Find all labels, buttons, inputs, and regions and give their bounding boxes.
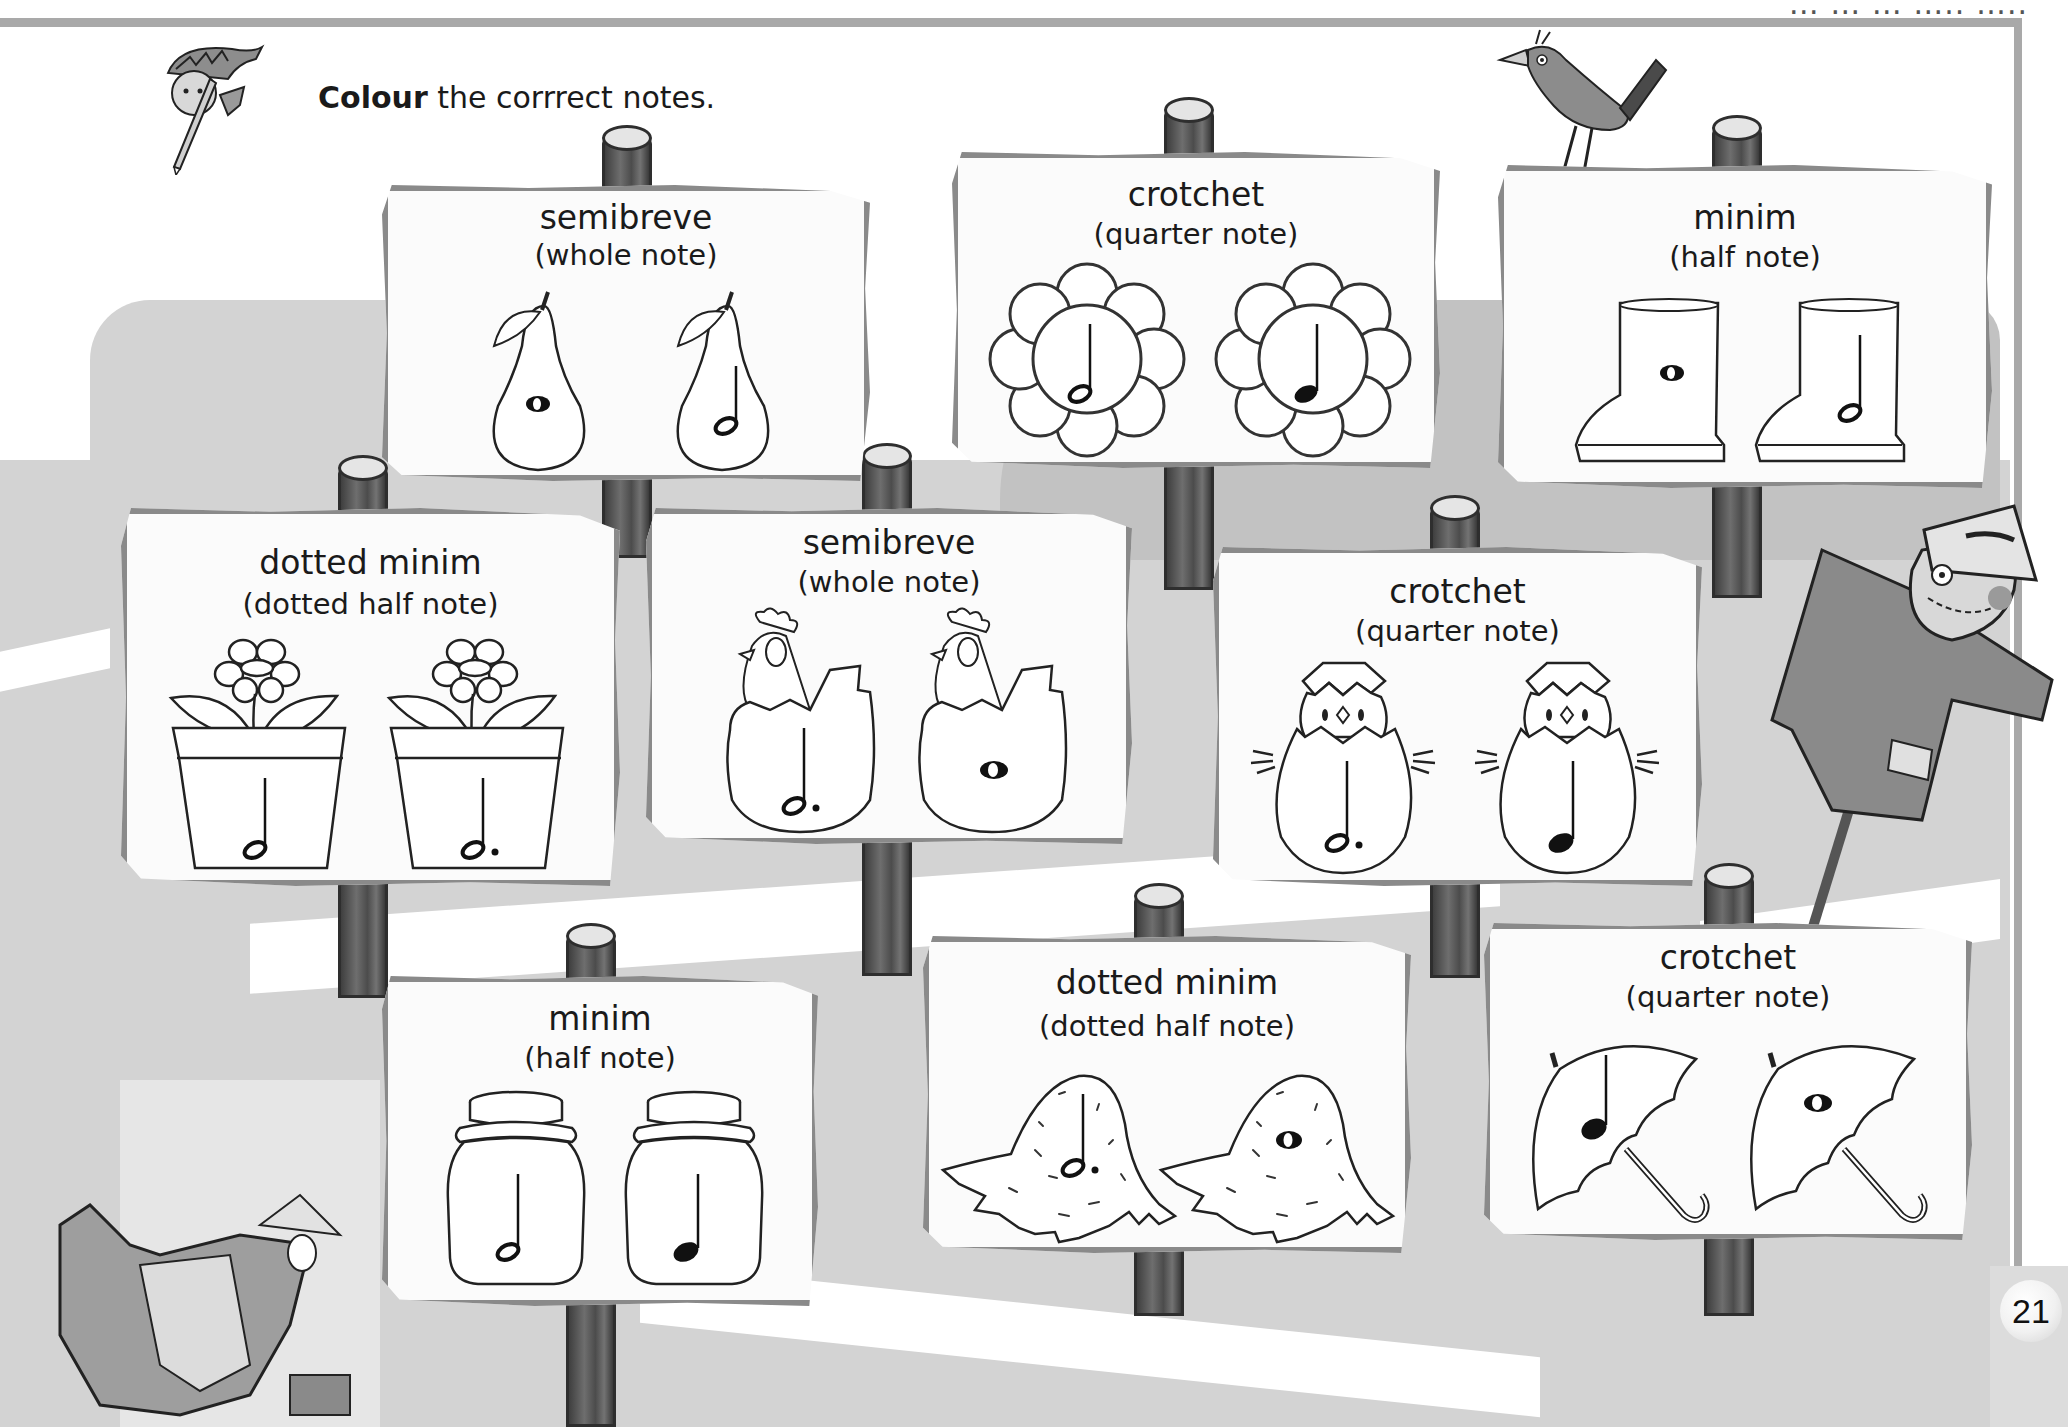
- flower-crotchet-item[interactable]: [1220, 266, 1406, 452]
- sign-minim-boots: minim (half note): [1498, 165, 1992, 488]
- sign-title: dotted minim: [127, 544, 614, 582]
- chick-dotted-minim-item[interactable]: [1245, 657, 1441, 875]
- sign-crotchet-chicks: crotchet (quarter note): [1213, 547, 1702, 886]
- sign-subtitle: (quarter note): [1219, 613, 1696, 649]
- hat-dotted-minim-item[interactable]: [939, 1064, 1179, 1244]
- sign-dotted-minim-flowerpots: dotted minim (dotted half note): [121, 508, 620, 886]
- sign-subtitle: (whole note): [388, 237, 864, 273]
- pear-semibreve-item[interactable]: [474, 286, 604, 476]
- sign-title: crotchet: [1219, 573, 1696, 611]
- flowerpot-minim-item[interactable]: [167, 638, 351, 878]
- sign-title: dotted minim: [929, 964, 1405, 1002]
- sign-title: crotchet: [1490, 939, 1966, 977]
- sign-title: semibreve: [388, 199, 864, 237]
- sign-subtitle: (whole note): [652, 564, 1126, 600]
- chick-crotchet-item[interactable]: [1469, 657, 1665, 875]
- page-number: 21: [2000, 1280, 2062, 1342]
- instruction-rest: the corrrect notes.: [428, 80, 715, 115]
- sign-subtitle: (dotted half note): [929, 1008, 1405, 1044]
- sign-semibreve-pears: semibreve (whole note): [382, 185, 870, 481]
- sign-minim-jars: minim (half note): [382, 976, 818, 1306]
- instruction-bold-word: Colour: [318, 80, 428, 115]
- boot-minim-item[interactable]: [1754, 295, 1904, 465]
- flower-minim-item[interactable]: [994, 266, 1180, 452]
- header-cut-off-text: … … … ….. …..: [1789, 0, 2028, 21]
- sign-title: crotchet: [958, 176, 1434, 214]
- umbrella-semibreve-item[interactable]: [1744, 1039, 1940, 1229]
- elf-with-crayon-illustration: [140, 35, 270, 175]
- sign-subtitle: (quarter note): [1490, 979, 1966, 1015]
- sign-subtitle: (quarter note): [958, 216, 1434, 252]
- boot-semibreve-item[interactable]: [1574, 295, 1724, 465]
- hen-semibreve-item[interactable]: [902, 610, 1076, 836]
- sign-title: semibreve: [652, 524, 1126, 562]
- hen-with-hat-illustration: [20, 1165, 390, 1427]
- sign-dotted-minim-hats: dotted minim (dotted half note): [923, 936, 1411, 1253]
- scarecrow-illustration: [1752, 470, 2068, 930]
- bird-illustration: [1480, 20, 1670, 180]
- instruction-text: Colour the corrrect notes.: [318, 80, 715, 115]
- pear-minim-item[interactable]: [658, 286, 788, 476]
- flowerpot-dotted-minim-item[interactable]: [385, 638, 569, 878]
- hat-semibreve-item[interactable]: [1157, 1064, 1397, 1244]
- sign-title: minim: [1504, 199, 1986, 237]
- hen-dotted-minim-item[interactable]: [710, 610, 884, 836]
- page-top-rule: [0, 18, 2022, 27]
- sign-title: minim: [388, 1000, 812, 1038]
- jar-minim-item[interactable]: [444, 1090, 588, 1286]
- sign-subtitle: (dotted half note): [127, 586, 614, 622]
- sign-subtitle: (half note): [388, 1040, 812, 1076]
- sign-semibreve-hens: semibreve (whole note): [646, 508, 1132, 844]
- jar-crotchet-item[interactable]: [622, 1090, 766, 1286]
- sign-subtitle: (half note): [1504, 239, 1986, 275]
- sign-crotchet-flowers: crotchet (quarter note): [952, 152, 1440, 468]
- sign-crotchet-umbrellas: crotchet (quarter note): [1484, 923, 1972, 1240]
- umbrella-crotchet-item[interactable]: [1526, 1039, 1722, 1229]
